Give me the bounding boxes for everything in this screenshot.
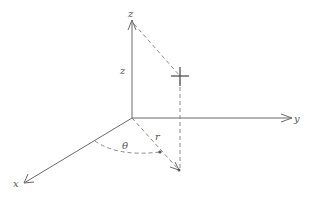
arc-end-point [158, 150, 161, 153]
radius-label: r [155, 131, 161, 142]
y-axis-label: y [293, 113, 300, 124]
y-axis: y [132, 113, 300, 124]
radius-arrow-icon [170, 162, 179, 170]
coordinate-diagram: z y x z r θ [0, 0, 313, 200]
z-axis-label: z [127, 8, 134, 19]
x-axis-label: x [13, 178, 19, 189]
radius-line [132, 118, 179, 170]
height-label: z [119, 65, 126, 76]
base-point [178, 169, 181, 172]
x-axis: x [13, 118, 132, 189]
z-projection-line [134, 24, 180, 76]
angle-label: θ [122, 140, 128, 151]
